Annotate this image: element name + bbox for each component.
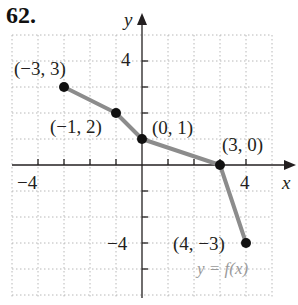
label-point-4-neg3: (4, −3) — [173, 233, 225, 255]
label-point-0-1: (0, 1) — [152, 117, 193, 139]
x-axis-label: x — [281, 172, 291, 193]
label-point-neg1-2: (−1, 2) — [50, 116, 102, 138]
equation-label: y = f(x) — [195, 259, 248, 278]
label-point-3-0: (3, 0) — [222, 134, 263, 156]
y-axis-arrow-icon — [137, 13, 147, 25]
label-point-neg3-3: (−3, 3) — [14, 58, 66, 80]
point-3-0 — [215, 160, 225, 170]
point-4-neg3 — [241, 238, 251, 248]
y-axis-label: y — [122, 9, 133, 30]
point-neg1-2 — [111, 108, 121, 118]
x-axis-arrow-icon — [284, 160, 296, 170]
graph: 62. y x 4 −4 −4 4 (−3, 3) (−1, 2) (0, 1)… — [0, 0, 298, 305]
x-tick-4: 4 — [240, 172, 250, 193]
y-tick-4: 4 — [121, 49, 131, 70]
y-tick-neg4: −4 — [107, 233, 128, 254]
point-0-1 — [137, 134, 147, 144]
x-tick-neg4: −4 — [17, 172, 38, 193]
problem-number: 62. — [6, 2, 36, 28]
point-neg3-3 — [59, 82, 69, 92]
